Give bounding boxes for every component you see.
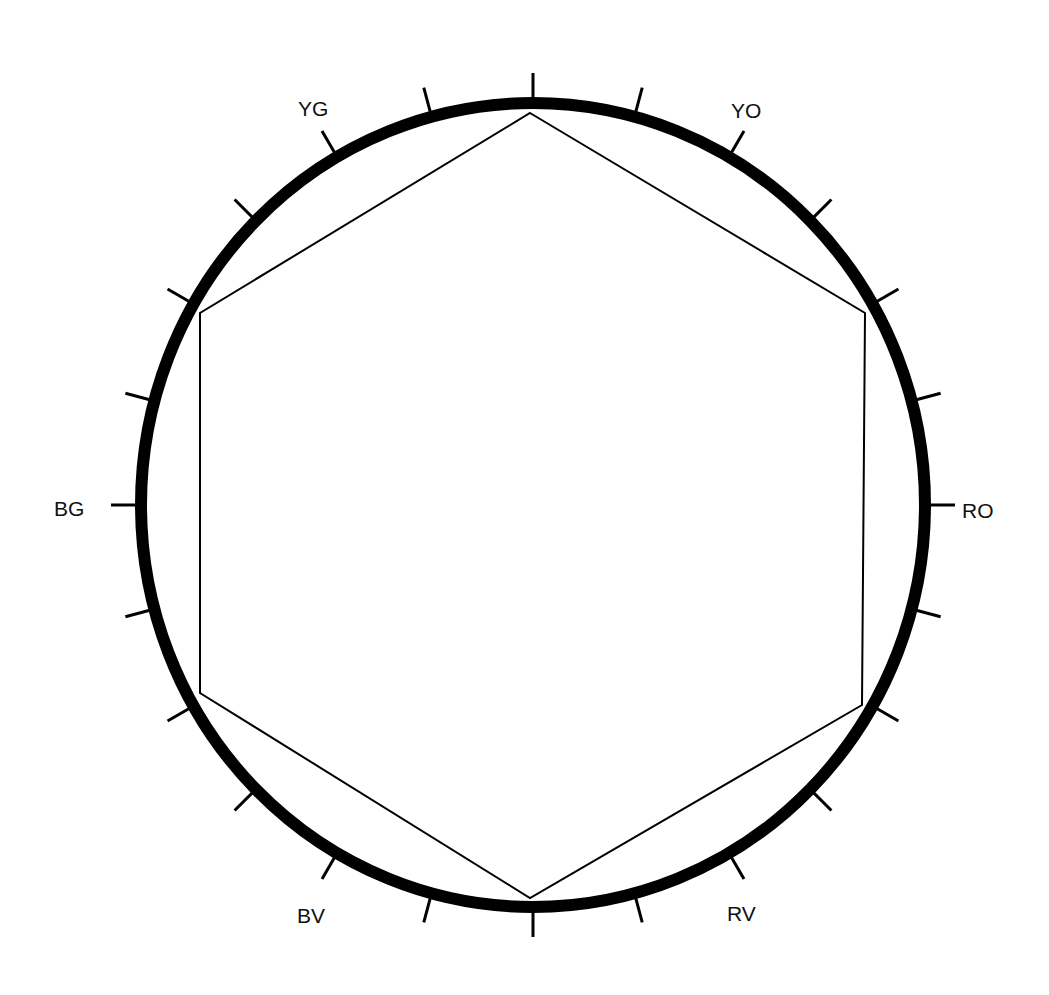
label-blue-violet: BV [297,905,325,926]
label-red-orange: RO [962,500,994,521]
label-yellow-green: YG [298,98,328,119]
label-blue-green: BG [54,498,84,519]
color-wheel-diagram [0,0,1049,995]
label-yellow-orange: YO [731,100,761,121]
hexagon [200,113,865,898]
label-red-violet: RV [727,903,756,924]
tick-marks [111,73,955,937]
color-wheel-circle [141,103,925,907]
